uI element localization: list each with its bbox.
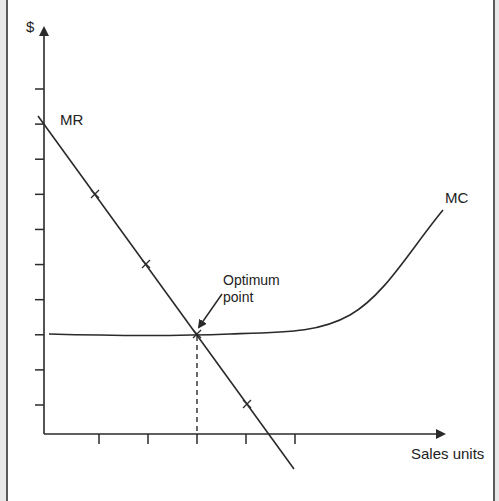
y-axis-label: $ xyxy=(26,18,35,35)
optimum-arrow xyxy=(199,294,222,327)
optimum-label-line1: Optimum xyxy=(223,272,280,288)
optimum-label-line2: point xyxy=(223,289,253,305)
x-axis-label: Sales units xyxy=(411,445,484,462)
mc-label: MC xyxy=(445,189,468,206)
mr-marker xyxy=(142,260,150,268)
mr-mc-diagram: $ Sales units MC MR Optimum point xyxy=(0,0,499,501)
mr-label: MR xyxy=(60,111,83,128)
y-axis-ticks xyxy=(35,89,44,405)
x-axis-ticks xyxy=(99,434,295,444)
mr-marker xyxy=(243,400,251,408)
mr-line xyxy=(38,116,294,469)
mr-marker xyxy=(91,190,99,198)
page: $ Sales units MC MR Optimum point xyxy=(0,0,499,501)
